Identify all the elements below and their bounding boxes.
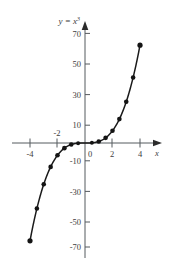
data-point (117, 117, 122, 122)
graph-figure: 70 50 30 10 -10 -30 -50 -70 -4 -2 0 2 4 … (0, 0, 170, 260)
x-axis-name-label: x (154, 148, 159, 158)
data-point (48, 165, 53, 170)
x-tick-label-neg2: -2 (53, 128, 60, 138)
y-tick-label-70: 70 (73, 29, 82, 39)
x-tick-label-2: 2 (110, 149, 114, 159)
y-tick-label-neg50: -50 (70, 217, 81, 227)
data-point (76, 141, 80, 145)
data-point (69, 142, 74, 147)
data-point (90, 141, 94, 145)
x-tick-label-neg4: -4 (26, 149, 34, 159)
svg-text:y = x3: y = x3 (57, 16, 80, 26)
y-tick-label-neg70: -70 (70, 242, 81, 252)
y-tick-label-neg10: -10 (70, 156, 81, 166)
equation-operator: = (62, 16, 73, 26)
y-tick-labels: 70 50 30 10 -10 -30 -50 -70 (70, 29, 81, 253)
data-point (96, 139, 101, 144)
data-point (27, 238, 32, 243)
x-tick-label-4: 4 (138, 149, 143, 159)
cubic-function-plot: 70 50 30 10 -10 -30 -50 -70 -4 -2 0 2 4 … (0, 0, 170, 260)
data-point (55, 153, 60, 158)
data-point (124, 99, 129, 104)
y-axis-ticks (85, 33, 90, 247)
data-point (131, 75, 136, 80)
data-point (35, 206, 40, 211)
data-point (110, 128, 115, 133)
equation-exponent: 3 (76, 16, 80, 22)
y-tick-label-10: 10 (73, 120, 82, 130)
y-axis-arrow-icon (82, 21, 89, 30)
y-tick-label-neg30: -30 (70, 187, 81, 197)
data-point (62, 146, 67, 151)
data-point (103, 136, 108, 141)
y-tick-label-50: 50 (73, 59, 82, 69)
y-tick-label-30: 30 (73, 90, 82, 100)
x-tick-label-0: 0 (88, 149, 92, 159)
curve-equation-label: y = x3 (57, 16, 80, 26)
data-point (41, 182, 46, 187)
x-axis-arrow-icon (153, 140, 162, 147)
data-point (137, 43, 142, 48)
